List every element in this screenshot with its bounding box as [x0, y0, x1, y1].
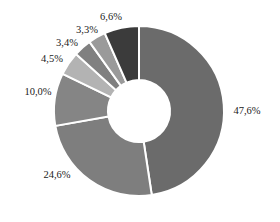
slice-percentage-label: 3,3%	[76, 24, 98, 35]
slice-percentage-label: 10,0%	[24, 86, 51, 97]
slice-percentage-label: 6,6%	[100, 11, 122, 22]
donut-slices	[54, 26, 224, 196]
slice-percentage-label: 4,5%	[41, 53, 63, 64]
donut-chart: 47,6%24,6%10,0%4,5%3,4%3,3%6,6%	[0, 0, 280, 222]
slice-percentage-label: 47,6%	[233, 105, 260, 116]
slice-percentage-label: 3,4%	[56, 37, 78, 48]
donut-chart-svg: 47,6%24,6%10,0%4,5%3,4%3,3%6,6%	[0, 0, 280, 222]
slice-percentage-label: 24,6%	[43, 169, 70, 180]
donut-slice	[139, 26, 224, 195]
donut-slice	[55, 116, 151, 196]
